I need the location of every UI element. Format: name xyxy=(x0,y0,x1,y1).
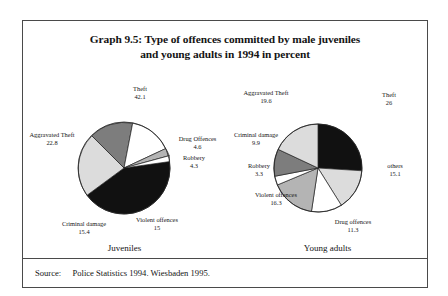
pie-chart-young-adults: Aggravated Theft 19.6 Criminal damage 9.… xyxy=(226,73,429,253)
label-others: others 15.1 xyxy=(371,162,419,177)
label-robbery: Robbery 3.3 xyxy=(232,162,286,177)
chart-title-line-2: and young adults in 1994 in percent xyxy=(23,47,427,62)
label-theft: Theft 42.1 xyxy=(112,85,168,100)
pie-slice-theft xyxy=(318,124,362,171)
label-violent-offences: Violent offences 15 xyxy=(127,216,187,231)
figure-frame: Graph 9.5: Type of offences committed by… xyxy=(22,20,428,288)
caption-juveniles: Juveniles xyxy=(23,243,226,253)
label-drug-offences: Drug offences 11.3 xyxy=(318,218,388,233)
label-robbery: Robbery 4.3 xyxy=(169,154,219,169)
label-criminal-damage: Criminal damage 15.4 xyxy=(53,220,115,235)
chart-title: Graph 9.5: Type of offences committed by… xyxy=(23,32,427,61)
label-theft: Theft 26 xyxy=(365,91,413,106)
caption-young-adults: Young adults xyxy=(226,243,429,253)
source-text: Police Statistics 1994. Wiesbaden 1995. xyxy=(72,268,209,278)
source-line: Source: Police Statistics 1994. Wiesbade… xyxy=(35,268,210,278)
source-label: Source: xyxy=(35,268,61,278)
chart-title-line-1: Graph 9.5: Type of offences committed by… xyxy=(23,32,427,47)
source-divider xyxy=(23,258,427,259)
label-aggravated-theft: Aggravated Theft 19.6 xyxy=(228,89,304,104)
label-violent-offences: Violent offences 16.3 xyxy=(238,191,314,206)
label-aggravated-theft: Aggravated Theft 22.8 xyxy=(23,131,81,146)
pie-chart-juveniles: Theft 42.1 Aggravated Theft 22.8 Crimina… xyxy=(23,73,226,253)
label-criminal-damage: Criminal damage 9.9 xyxy=(218,131,294,146)
